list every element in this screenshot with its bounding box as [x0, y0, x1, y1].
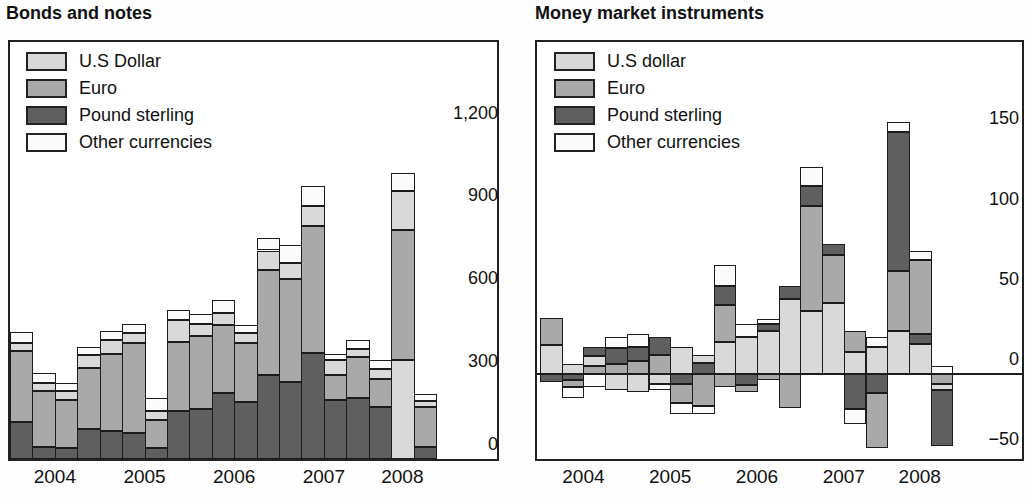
bar-segment-usd-negative [649, 374, 672, 384]
bar-segment-other [145, 398, 168, 410]
bar-segment-euro [346, 357, 369, 398]
x-axis-year-label: 2008 [381, 466, 423, 488]
bar-segment-other-negative [844, 409, 867, 423]
bar-segment-usd [234, 333, 257, 343]
bar-segment-usd [279, 263, 302, 280]
bar-segment-other [391, 173, 414, 191]
bar-segment-other [369, 360, 392, 370]
legend-swatch-usd [554, 52, 595, 71]
bar-segment-euro [800, 206, 823, 312]
legend-swatch-pound [554, 106, 595, 125]
bar-segment-euro-negative [692, 374, 715, 406]
bar-segment-usd [324, 360, 347, 375]
bar-segment-pound [77, 429, 100, 459]
bar-segment-usd [540, 345, 563, 374]
x-axis-year-label: 2006 [213, 466, 255, 488]
bar-segment-usd [583, 356, 606, 366]
bar-segment-other [100, 331, 123, 341]
bar-segment-pound [100, 431, 123, 459]
legend-label-usd: U.S Dollar [79, 51, 161, 72]
bar-segment-usd [167, 320, 190, 342]
bar-segment-euro-negative [779, 374, 802, 408]
legend: U.S DollarEuroPound sterlingOther curren… [26, 48, 212, 156]
bar-segment-euro [301, 226, 324, 353]
bar-segment-usd [257, 251, 280, 270]
bar-segment-pound [32, 447, 55, 459]
bar-segment-usd [77, 355, 100, 367]
bar-segment-usd [800, 311, 823, 374]
bar-segment-pound [369, 407, 392, 459]
legend: U.S dollarEuroPound sterlingOther curren… [554, 48, 740, 156]
bar-segment-euro [212, 325, 235, 393]
bar-segment-usd [714, 342, 737, 374]
bar-segment-pound [324, 400, 347, 459]
bar-segment-pound [234, 402, 257, 459]
bar-segment-other-negative [692, 406, 715, 414]
legend-item-usd: U.S dollar [554, 48, 740, 75]
bar-segment-other-negative [562, 387, 585, 398]
bar-segment-pound [714, 286, 737, 305]
bar-segment-usd-negative [605, 374, 628, 390]
bar-segment-euro [369, 379, 392, 407]
bar-segment-euro [583, 366, 606, 374]
legend-item-pound: Pound sterling [554, 102, 740, 129]
bar-segment-other [605, 337, 628, 348]
bar-segment-euro [391, 230, 414, 360]
bar-segment-pound-negative [866, 374, 889, 393]
y-axis-tick-label: −50 [949, 429, 1019, 450]
bar-segment-usd [866, 347, 889, 374]
legend-item-usd: U.S Dollar [26, 48, 212, 75]
y-axis-tick-label: 1,200 [428, 102, 498, 123]
legend-item-pound: Pound sterling [26, 102, 212, 129]
legend-label-euro: Euro [607, 78, 645, 99]
bar-segment-other [77, 347, 100, 355]
y-axis-tick-label: 100 [949, 188, 1019, 209]
bar-segment-pound [212, 393, 235, 459]
bar-segment-other-negative [583, 374, 606, 387]
bar-segment-euro [844, 331, 867, 352]
bar-segment-other [866, 337, 889, 347]
bar-segment-euro [887, 271, 910, 330]
bar-segment-usd [100, 340, 123, 354]
bar-segment-usd [887, 331, 910, 374]
legend-label-other: Other currencies [607, 132, 740, 153]
bar-segment-other-negative [670, 403, 693, 414]
bar-segment-usd [757, 331, 780, 374]
bar-segment-euro [909, 260, 932, 334]
bar-segment-other [735, 324, 758, 337]
bar-segment-euro [122, 343, 145, 433]
x-axis-year-label: 2007 [823, 466, 865, 488]
bar-segment-pound-negative [844, 374, 867, 409]
bar-segment-usd [10, 343, 33, 351]
bar-segment-usd [301, 206, 324, 225]
bar-segment-euro-negative [866, 393, 889, 448]
bar-segment-euro [77, 368, 100, 429]
bar-segment-other [324, 354, 347, 360]
bar-segment-pound [55, 448, 78, 459]
bar-segment-other [909, 251, 932, 261]
bar-segment-usd [844, 352, 867, 374]
bar-segment-pound [887, 132, 910, 272]
bar-segment-pound-negative [670, 374, 693, 384]
bar-segment-euro [32, 391, 55, 446]
bar-segment-other [301, 186, 324, 207]
y-axis-tick-label: 300 [428, 351, 498, 372]
bar-segment-usd [391, 360, 414, 459]
bar-segment-usd [391, 191, 414, 230]
bar-segment-euro [189, 336, 212, 409]
bar-segment-euro [100, 354, 123, 431]
chart-title-bonds-and-notes: Bonds and notes [6, 3, 152, 24]
bar-segment-other [414, 394, 437, 401]
bar-segment-other [346, 340, 369, 348]
bar-segment-pound [909, 334, 932, 344]
bar-segment-usd [692, 355, 715, 363]
bar-segment-pound [257, 375, 280, 459]
legend-item-euro: Euro [26, 75, 212, 102]
bar-segment-euro [649, 355, 672, 374]
bar-segment-pound-negative [540, 374, 563, 382]
legend-label-other: Other currencies [79, 132, 212, 153]
bar-segment-euro [234, 343, 257, 402]
x-axis-year-label: 2006 [736, 466, 778, 488]
legend-item-other: Other currencies [554, 129, 740, 156]
bar-segment-usd [822, 303, 845, 374]
